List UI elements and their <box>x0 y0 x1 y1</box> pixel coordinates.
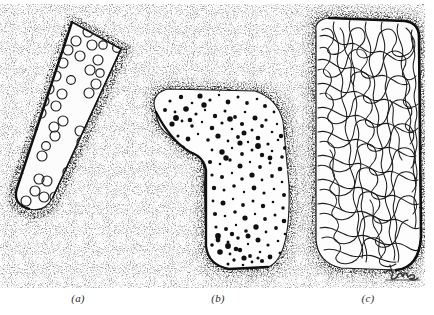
panel-c-cell <box>302 5 434 284</box>
caption-row: (a) (b) (c) <box>0 290 434 315</box>
illustration-plate <box>0 0 434 290</box>
panel-label-a: (a) <box>58 292 98 304</box>
figure-root: (a) (b) (c) <box>0 0 434 315</box>
right-margin-trim <box>425 0 434 290</box>
illustration-svg <box>0 0 434 290</box>
panel-label-b: (b) <box>198 292 238 304</box>
panel-label-c: (c) <box>348 292 388 304</box>
